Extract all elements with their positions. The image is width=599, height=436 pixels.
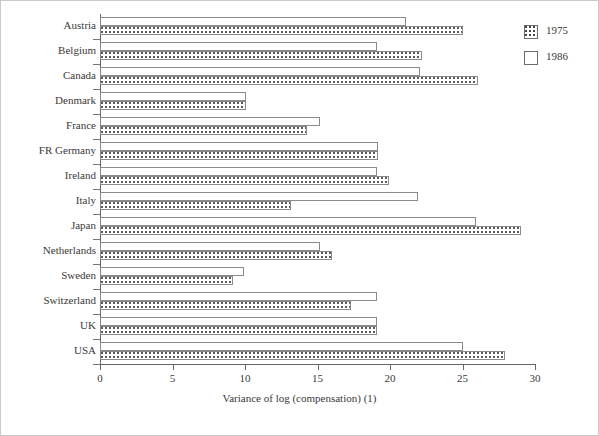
chart-row: Belgium [0, 39, 599, 64]
bar-1986 [100, 292, 377, 301]
x-tick [173, 364, 174, 370]
x-tick-label: 0 [97, 372, 103, 384]
bar-1986 [100, 342, 463, 351]
bar-1975 [100, 151, 378, 160]
category-label: USA [74, 344, 96, 356]
x-tick [390, 364, 391, 370]
legend-item-1975: 1975 [524, 22, 594, 48]
legend-label-1975: 1975 [546, 24, 568, 36]
x-tick [318, 364, 319, 370]
x-tick [535, 364, 536, 370]
bar-1986 [100, 217, 476, 226]
bar-1986 [100, 142, 378, 151]
chart-row: Switzerland [0, 289, 599, 314]
x-tick-label: 25 [457, 372, 468, 384]
bar-1986 [100, 267, 244, 276]
bar-1975 [100, 51, 422, 60]
x-tick-label: 15 [312, 372, 323, 384]
chart-row: Japan [0, 214, 599, 239]
legend-label-1986: 1986 [546, 50, 568, 62]
chart-row: UK [0, 314, 599, 339]
x-tick-label: 20 [385, 372, 396, 384]
chart-row: USA [0, 339, 599, 364]
bar-1975 [100, 126, 307, 135]
x-tick [245, 364, 246, 370]
bar-1975 [100, 301, 351, 310]
category-label: UK [80, 319, 96, 331]
category-label: Ireland [65, 169, 96, 181]
bar-1975 [100, 326, 377, 335]
category-label: Canada [63, 69, 96, 81]
x-tick-label: 30 [530, 372, 541, 384]
bar-1986 [100, 117, 320, 126]
bar-1975 [100, 201, 291, 210]
x-tick [463, 364, 464, 370]
bar-1975 [100, 251, 332, 260]
bar-1986 [100, 42, 377, 51]
bar-1975 [100, 76, 478, 85]
chart-row: FR Germany [0, 139, 599, 164]
bar-1986 [100, 92, 246, 101]
y-tick [93, 364, 100, 365]
category-label: Italy [76, 194, 96, 206]
dotted-square-swatch-icon [524, 25, 538, 39]
bar-1986 [100, 317, 377, 326]
chart-row: Austria [0, 14, 599, 39]
chart-legend: 1975 1986 [524, 22, 594, 74]
bar-1975 [100, 226, 521, 235]
bar-1986 [100, 167, 377, 176]
chart-row: Canada [0, 64, 599, 89]
chart-row: Ireland [0, 164, 599, 189]
bar-1975 [100, 276, 233, 285]
bar-1986 [100, 17, 406, 26]
x-tick-label: 10 [240, 372, 251, 384]
category-label: FR Germany [39, 144, 96, 156]
white-square-swatch-icon [524, 51, 538, 65]
chart-row: Netherlands [0, 239, 599, 264]
chart-row: Italy [0, 189, 599, 214]
bar-1975 [100, 351, 505, 360]
chart-row: France [0, 114, 599, 139]
category-label: Sweden [61, 269, 96, 281]
legend-item-1986: 1986 [524, 48, 594, 74]
bar-1986 [100, 67, 420, 76]
bar-1975 [100, 101, 246, 110]
category-label: Denmark [55, 94, 96, 106]
bar-1986 [100, 192, 418, 201]
category-label: Netherlands [43, 244, 96, 256]
category-label: France [66, 119, 96, 131]
x-tick-label: 5 [170, 372, 176, 384]
category-label: Switzerland [43, 294, 96, 306]
chart-row: Sweden [0, 264, 599, 289]
x-axis-label: Variance of log (compensation) (1) [0, 392, 599, 404]
category-label: Japan [71, 219, 96, 231]
bar-1986 [100, 242, 320, 251]
bar-1975 [100, 176, 389, 185]
category-label: Austria [64, 19, 96, 31]
x-tick [100, 364, 101, 370]
bar-1975 [100, 26, 463, 35]
category-label: Belgium [58, 44, 96, 56]
chart-row: Denmark [0, 89, 599, 114]
